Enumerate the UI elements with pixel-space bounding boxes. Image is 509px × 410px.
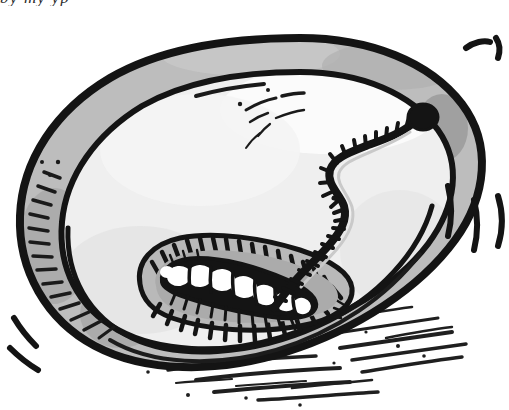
oyster-illustration [0,0,509,410]
illustration-page: by my yp [0,0,509,410]
worm-head [408,104,438,130]
motion-lines-left [10,318,38,370]
motion-lines-right-top [466,38,499,58]
worm-nub [334,198,343,201]
